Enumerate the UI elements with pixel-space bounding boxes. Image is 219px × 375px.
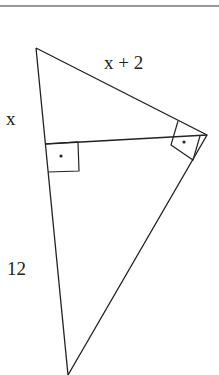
triangle-outline <box>36 48 207 375</box>
right-angle-dot-vertex <box>182 140 185 143</box>
label-hypotenuse: x + 2 <box>104 52 143 73</box>
triangle-diagram: x + 2 x 12 <box>0 0 219 375</box>
label-12: 12 <box>7 258 26 279</box>
label-x: x <box>6 108 16 129</box>
right-angle-dot-foot <box>59 154 62 157</box>
